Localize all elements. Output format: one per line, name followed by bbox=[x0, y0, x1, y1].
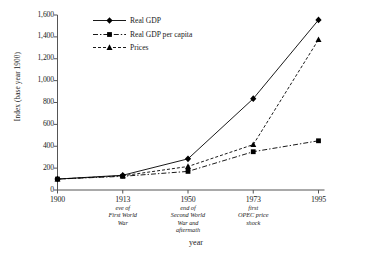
legend-item-prices: Prices bbox=[93, 41, 192, 55]
x-axis-annotation-line: shock bbox=[213, 219, 293, 226]
legend-key-swatch bbox=[93, 15, 126, 26]
legend-key-swatch bbox=[93, 29, 126, 40]
x-axis-tick-1995: 1995 bbox=[279, 195, 359, 204]
chart-legend: Real GDPReal GDP per capitaPrices bbox=[93, 14, 192, 55]
x-axis-title: year bbox=[151, 238, 241, 247]
legend-label: Real GDP per capita bbox=[130, 30, 192, 39]
x-axis-tick-label: 1995 bbox=[279, 195, 359, 204]
x-axis-annotation-line: OPEC price bbox=[213, 211, 293, 218]
legend-item-real-gdp-per-capita: Real GDP per capita bbox=[93, 28, 192, 42]
legend-key-swatch bbox=[93, 42, 126, 53]
x-axis-annotation-line: aftermath bbox=[148, 226, 228, 233]
chart-container: Index (base year 1900) 02004006008001,00… bbox=[0, 0, 371, 262]
legend-label: Prices bbox=[130, 43, 149, 52]
legend-item-real-gdp: Real GDP bbox=[93, 14, 192, 28]
x-axis-annotation-line: first bbox=[213, 204, 293, 211]
legend-label: Real GDP bbox=[130, 16, 161, 25]
